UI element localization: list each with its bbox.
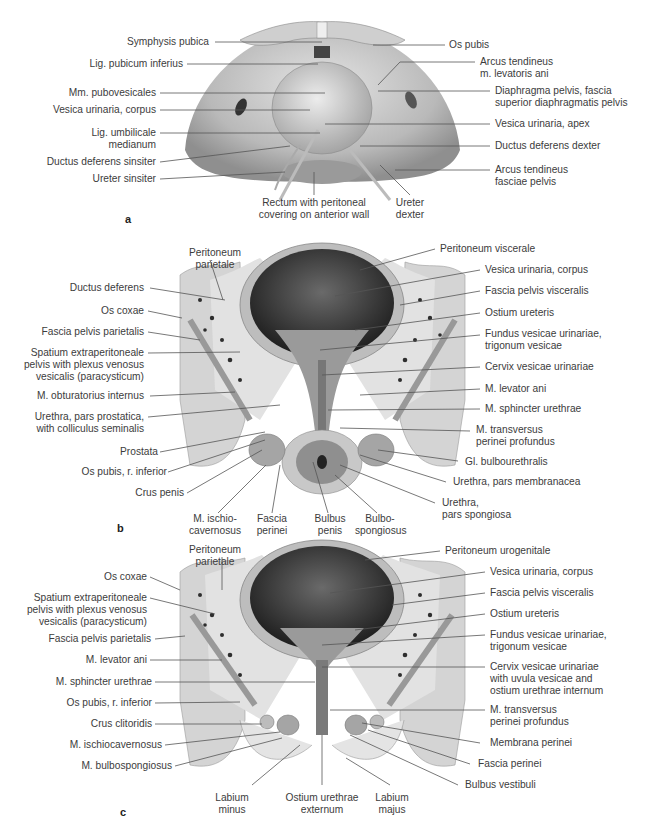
label-m-levator-ani-c: M. levator ani — [86, 654, 147, 666]
label-spatium-extraperitoneale-c: Spatium extraperitoneale pelvis with ple… — [27, 592, 147, 628]
label-fascia-perinei-c: Fascia perinei — [478, 758, 541, 770]
label-ostium-ureteris-c: Ostium ureteris — [490, 608, 559, 620]
label-fundus-vesicae-c: Fundus vesicae urinariae, trigonum vesic… — [490, 629, 607, 653]
label-ostium-urethrae-externum: Ostium urethrae externum — [280, 792, 364, 816]
label-fascia-pelvis-visceralis-c: Fascia pelvis visceralis — [490, 587, 594, 599]
label-vesica-urinaria-corpus-c: Vesica urinaria, corpus — [490, 566, 593, 578]
label-m-bulbospongiosus-c: M. bulbospongiosus — [81, 760, 172, 772]
label-labium-minus: Labium minus — [210, 792, 254, 816]
label-m-ischiocavernosus-c: M. ischiocavernosus — [70, 739, 162, 751]
label-m-sphincter-urethrae-c: M. sphincter urethrae — [56, 676, 152, 688]
label-m-transversus-perinei-c: M. transversus perinei profundus — [490, 704, 569, 728]
label-os-pubis-r-inferior-c: Os pubis, r. inferior — [67, 697, 153, 709]
label-crus-clitoridis: Crus clitoridis — [91, 718, 152, 730]
label-peritoneum-parietale-c: Peritoneum parietale — [180, 544, 250, 568]
label-membrana-perinei: Membrana perinei — [490, 737, 572, 749]
label-fascia-pelvis-parietalis-c: Fascia pelvis parietalis — [49, 633, 151, 645]
label-peritoneum-urogenitale: Peritoneum urogenitale — [445, 545, 550, 557]
label-labium-majus: Labium majus — [370, 792, 414, 816]
panel-letter-c: c — [120, 806, 126, 818]
panel-c: Peritoneum parietale Os coxae Spatium ex… — [0, 0, 645, 834]
label-cervix-vesicae-c: Cervix vesicae urinariae with uvula vesi… — [490, 661, 603, 697]
label-os-coxae-c: Os coxae — [104, 571, 147, 583]
label-bulbus-vestibuli: Bulbus vestibuli — [465, 779, 536, 791]
